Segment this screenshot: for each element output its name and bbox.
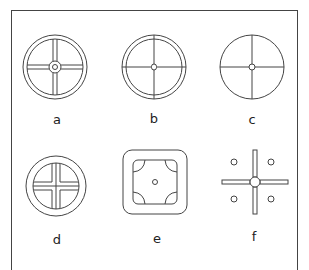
figure-c-circle-cross-icon (220, 35, 284, 99)
figure-e-label: e (153, 232, 161, 245)
figure-c-label: c (248, 113, 255, 126)
figure-b-wheel-icon (122, 35, 186, 99)
figure-d-label: d (53, 233, 61, 246)
figure-b-label: b (150, 112, 158, 125)
figure-a-wheel-icon (23, 35, 87, 99)
figure-a-label: a (53, 113, 61, 126)
figure-f-label: f (252, 230, 257, 243)
figure-d-ring-cross-icon (26, 156, 86, 216)
figure-e-rounded-square-icon (123, 150, 187, 214)
figure-f-cross-dots-icon (222, 150, 288, 214)
